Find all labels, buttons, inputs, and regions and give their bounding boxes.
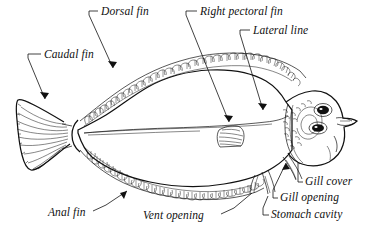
leader-gill-cover [298, 163, 303, 182]
label-dorsal-fin: Dorsal fin [101, 6, 149, 18]
caudal-fin [16, 100, 80, 170]
label-lateral-line: Lateral line [253, 25, 308, 37]
label-right-pectoral-fin: Right pectoral fin [200, 6, 283, 18]
label-gill-opening: Gill opening [280, 192, 339, 204]
fish-anatomy-figure: Dorsal fin Right pectoral fin Lateral li… [0, 0, 373, 244]
leader-lateral-line [240, 30, 267, 110]
leader-caudal-fin [28, 54, 49, 99]
label-stomach-cavity: Stomach cavity [271, 209, 342, 221]
label-anal-fin: Anal fin [48, 207, 86, 219]
label-caudal-fin: Caudal fin [44, 49, 94, 61]
leader-vent-opening [221, 193, 252, 214]
label-gill-cover: Gill cover [305, 176, 352, 188]
anal-fin [80, 147, 264, 200]
fish-head [283, 91, 357, 166]
leader-stomach-cavity [263, 196, 269, 215]
leader-anal-fin [93, 191, 127, 211]
eye-upper [314, 104, 332, 117]
label-vent-opening: Vent opening [143, 210, 204, 222]
eye-lower [309, 122, 327, 134]
leader-right-pectoral-fin [186, 11, 233, 122]
lateral-line [84, 116, 288, 133]
right-pectoral-fin [217, 126, 244, 147]
fish-body [78, 70, 292, 187]
